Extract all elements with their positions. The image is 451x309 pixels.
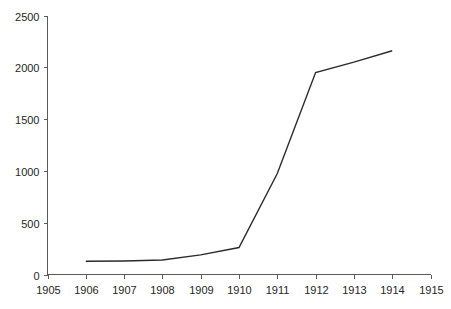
- y-tick-label: 1500: [15, 114, 39, 126]
- line-chart: 0500100015002000250019051906190719081909…: [0, 0, 451, 309]
- x-tick-label: 1909: [189, 284, 213, 296]
- x-tick-label: 1913: [342, 284, 366, 296]
- x-tick-label: 1910: [227, 284, 251, 296]
- x-tick-label: 1911: [266, 284, 290, 296]
- y-tick-label: 0: [33, 270, 39, 282]
- series-line-0: [86, 51, 392, 262]
- y-tick-label: 1000: [15, 166, 39, 178]
- x-tick-label: 1906: [74, 284, 98, 296]
- x-tick-label: 1905: [36, 284, 60, 296]
- x-tick-label: 1915: [419, 284, 443, 296]
- y-tick-label: 2500: [15, 11, 39, 23]
- x-tick-label: 1912: [304, 284, 328, 296]
- chart-canvas: 0500100015002000250019051906190719081909…: [0, 0, 451, 309]
- x-tick-label: 1908: [150, 284, 174, 296]
- x-tick-label: 1907: [112, 284, 136, 296]
- y-tick-label: 2000: [15, 62, 39, 74]
- y-tick-label: 500: [21, 218, 39, 230]
- x-tick-label: 1914: [380, 284, 404, 296]
